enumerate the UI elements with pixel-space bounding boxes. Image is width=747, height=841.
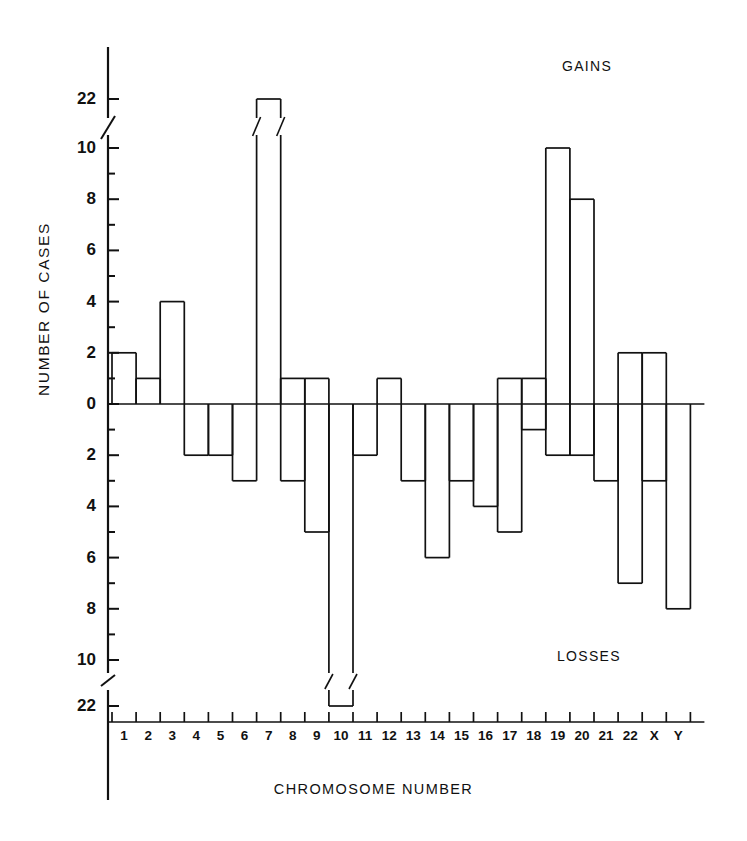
x-tick-label-9: 9 bbox=[313, 728, 321, 743]
bar-loss-15 bbox=[449, 404, 473, 481]
bar-loss-Y bbox=[666, 404, 690, 609]
x-tick-label-10: 10 bbox=[333, 728, 348, 743]
bar-loss-X bbox=[642, 404, 666, 481]
chromosome-gains-losses-chart: NUMBER OF CASES CHROMOSOME NUMBER GAINS … bbox=[0, 0, 747, 841]
x-tick-label-8: 8 bbox=[289, 728, 297, 743]
bar-gain-8 bbox=[281, 378, 305, 404]
y-tick-label-loss-22: 22 bbox=[62, 696, 96, 716]
y-tick-label-loss-4: 4 bbox=[62, 496, 96, 516]
bar-loss-5 bbox=[208, 404, 232, 455]
plot-area bbox=[0, 0, 747, 841]
bar-gain-2 bbox=[136, 378, 160, 404]
bar-loss-17 bbox=[498, 404, 522, 532]
bar-gain-20 bbox=[570, 199, 594, 404]
y-tick-label-gain-4: 4 bbox=[62, 292, 96, 312]
x-tick-label-19: 19 bbox=[550, 728, 565, 743]
x-tick-label-7: 7 bbox=[265, 728, 273, 743]
bar-gain-7 bbox=[253, 99, 285, 404]
y-tick-label-loss-6: 6 bbox=[62, 548, 96, 568]
bar-gain-19 bbox=[546, 148, 570, 404]
bar-gain-22 bbox=[618, 353, 642, 404]
y-tick-label-gain-6: 6 bbox=[62, 240, 96, 260]
bar-loss-6 bbox=[233, 404, 257, 481]
x-tick-label-5: 5 bbox=[217, 728, 225, 743]
x-tick-label-11: 11 bbox=[358, 728, 372, 743]
bar-loss-14 bbox=[425, 404, 449, 558]
y-tick-label-gain-0: 0 bbox=[62, 394, 96, 414]
bar-gain-9 bbox=[305, 378, 329, 404]
y-tick-label-loss-8: 8 bbox=[62, 599, 96, 619]
bar-gain-3 bbox=[160, 302, 184, 404]
x-tick-label-17: 17 bbox=[502, 728, 517, 743]
x-tick-label-14: 14 bbox=[430, 728, 445, 743]
bar-loss-21 bbox=[594, 404, 618, 481]
y-axis-break-lower bbox=[101, 675, 115, 686]
bar-loss-4 bbox=[184, 404, 208, 455]
bar-loss-18 bbox=[522, 404, 546, 430]
bar-loss-19 bbox=[546, 404, 570, 455]
bar-break-left bbox=[325, 674, 333, 689]
x-tick-label-1: 1 bbox=[120, 728, 128, 743]
bar-loss-20 bbox=[570, 404, 594, 455]
bar-break-right bbox=[277, 117, 285, 136]
bar-loss-8 bbox=[281, 404, 305, 481]
y-tick-label-loss-2: 2 bbox=[62, 445, 96, 465]
y-tick-label-loss-10: 10 bbox=[62, 650, 96, 670]
x-tick-label-X: X bbox=[650, 728, 659, 743]
bar-gain-17 bbox=[498, 378, 522, 404]
bar-break-left bbox=[253, 117, 261, 136]
x-tick-label-Y: Y bbox=[674, 728, 683, 743]
x-tick-label-16: 16 bbox=[478, 728, 493, 743]
bar-gain-18 bbox=[522, 378, 546, 404]
x-tick-label-6: 6 bbox=[241, 728, 249, 743]
x-tick-label-13: 13 bbox=[406, 728, 421, 743]
bar-gain-1 bbox=[112, 353, 136, 404]
bar-loss-11 bbox=[353, 404, 377, 455]
x-tick-label-3: 3 bbox=[168, 728, 176, 743]
bar-break-right bbox=[349, 674, 357, 689]
x-tick-label-2: 2 bbox=[144, 728, 152, 743]
bar-loss-22 bbox=[618, 404, 642, 583]
y-tick-label-gain-8: 8 bbox=[62, 189, 96, 209]
y-tick-label-gain-22: 22 bbox=[62, 89, 96, 109]
x-tick-label-4: 4 bbox=[193, 728, 201, 743]
y-tick-label-gain-2: 2 bbox=[62, 343, 96, 363]
bar-loss-13 bbox=[401, 404, 425, 481]
x-tick-label-20: 20 bbox=[574, 728, 589, 743]
x-tick-label-12: 12 bbox=[382, 728, 397, 743]
x-tick-label-18: 18 bbox=[526, 728, 541, 743]
y-tick-label-gain-10: 10 bbox=[62, 138, 96, 158]
x-tick-label-15: 15 bbox=[454, 728, 469, 743]
x-tick-label-22: 22 bbox=[623, 728, 638, 743]
bar-loss-16 bbox=[474, 404, 498, 506]
x-tick-label-21: 21 bbox=[599, 728, 614, 743]
bar-gain-X bbox=[642, 353, 666, 404]
bar-gain-12 bbox=[377, 378, 401, 404]
bar-loss-9 bbox=[305, 404, 329, 532]
